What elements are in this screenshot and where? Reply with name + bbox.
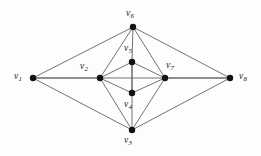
label-base-v2: v [80, 61, 84, 71]
graph-vertex-label-v1: v1 [14, 72, 22, 82]
label-base-v7: v [166, 60, 170, 70]
label-subscript-v1: 1 [19, 75, 23, 83]
edges-layer [33, 27, 230, 130]
graph-vertex-label-v5: v5 [124, 44, 132, 54]
graph-vertex-v5 [129, 59, 135, 65]
graph-vertex-label-v6: v6 [126, 9, 134, 19]
graph-vertex-v3 [129, 127, 135, 133]
graph-vertex-label-v3: v3 [124, 136, 132, 146]
graph-vertex-label-v7: v7 [166, 61, 174, 71]
graph-vertex-label-v4: v4 [124, 100, 132, 110]
graph-edge-v5-v6 [132, 27, 133, 62]
graph-vertex-label-v2: v2 [80, 62, 88, 72]
label-subscript-v4: 4 [129, 103, 133, 111]
label-base-v1: v [14, 71, 18, 81]
graph-vertex-v4 [129, 90, 135, 96]
label-base-v5: v [124, 43, 128, 53]
label-subscript-v2: 2 [85, 65, 89, 73]
graph-edge-v6-v8 [133, 27, 230, 78]
graph-vertex-v1 [30, 75, 36, 81]
label-subscript-v7: 7 [171, 64, 175, 72]
label-subscript-v6: 6 [131, 12, 135, 20]
graph-vertex-v2 [97, 75, 103, 81]
label-base-v4: v [124, 99, 128, 109]
graph-figure: v1v2v3v4v5v6v7v8 [0, 0, 261, 156]
label-subscript-v8: 8 [244, 75, 248, 83]
label-base-v3: v [124, 135, 128, 145]
graph-vertex-v7 [162, 75, 168, 81]
graph-vertex-label-v8: v8 [239, 72, 247, 82]
graph-canvas [0, 0, 261, 156]
graph-vertex-v6 [130, 24, 136, 30]
label-base-v8: v [239, 71, 243, 81]
graph-vertex-v8 [227, 75, 233, 81]
label-subscript-v5: 5 [129, 47, 133, 55]
label-subscript-v3: 3 [129, 139, 133, 147]
graph-edge-v3-v8 [132, 78, 230, 130]
label-base-v6: v [126, 8, 130, 18]
